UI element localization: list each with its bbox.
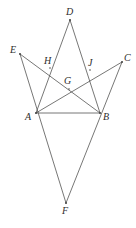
seg-D-B: [70, 20, 100, 113]
point-g-dot: [68, 88, 70, 90]
point-label-a: A: [25, 112, 31, 122]
point-label-j: J: [88, 58, 92, 68]
point-label-h: H: [44, 56, 51, 66]
point-e-dot: [19, 53, 21, 55]
point-c-dot: [121, 61, 123, 63]
geometry-figure: ABCDEFGHJ: [0, 0, 136, 228]
point-label-d: D: [66, 7, 73, 17]
seg-E-F: [20, 54, 66, 203]
point-label-f: F: [62, 206, 68, 216]
point-label-g: G: [64, 76, 71, 86]
point-label-b: B: [103, 112, 109, 122]
point-a-dot: [35, 112, 37, 114]
seg-C-A: [36, 62, 122, 113]
seg-D-A: [36, 20, 70, 113]
point-b-dot: [99, 112, 101, 114]
seg-C-F: [66, 62, 122, 203]
point-label-e: E: [10, 45, 16, 55]
figure-canvas: [0, 0, 136, 228]
point-f-dot: [65, 202, 67, 204]
point-label-c: C: [124, 53, 131, 63]
point-j-dot: [89, 69, 91, 71]
point-h-dot: [49, 67, 51, 69]
point-d-dot: [69, 19, 71, 21]
